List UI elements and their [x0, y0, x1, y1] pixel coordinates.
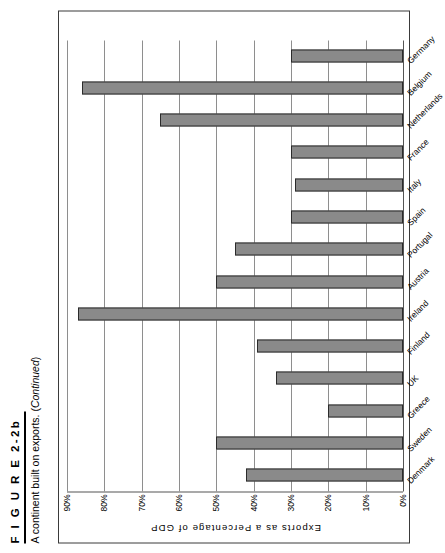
- bar-fill: [328, 404, 403, 417]
- bar: [291, 146, 403, 159]
- tick-label: 90%: [62, 494, 72, 511]
- figure-caption-close: ): [29, 356, 41, 360]
- bar-fill: [291, 210, 403, 223]
- bar-fill: [216, 436, 403, 449]
- bar-series: [67, 40, 403, 491]
- bar: [276, 372, 403, 385]
- category-label: Belgium: [405, 69, 434, 98]
- gridline: [403, 40, 404, 491]
- bar: [216, 275, 403, 288]
- category-label: Spain: [405, 204, 427, 226]
- category-label: France: [405, 136, 431, 162]
- figure-rule: [24, 411, 26, 543]
- chart-frame: Exports as a Percentage of GDP 90%80%70%…: [58, 10, 410, 543]
- bar-fill: [78, 307, 403, 320]
- tick-label: 80%: [99, 494, 109, 511]
- bar: [160, 113, 403, 126]
- figure-caption: A continent built on exports. (Continued…: [29, 123, 42, 543]
- bar: [291, 210, 403, 223]
- category-label: Finland: [405, 329, 432, 356]
- tick-label: 0%: [398, 494, 408, 506]
- bar: [235, 242, 403, 255]
- bar-fill: [160, 113, 403, 126]
- value-axis-title: Exports as a Percentage of GDP: [59, 518, 411, 538]
- bar: [82, 81, 403, 94]
- tick-label: 50%: [211, 494, 221, 511]
- tick-label: 30%: [286, 494, 296, 511]
- value-axis-tick-labels: 90%80%70%60%50%40%30%20%10%0%: [59, 492, 411, 518]
- tick-label: 10%: [361, 494, 371, 511]
- category-label: Germany: [405, 33, 437, 65]
- category-label: Denmark: [405, 453, 436, 484]
- bar-fill: [276, 372, 403, 385]
- figure-header: F I G U R E 2-2b A continent built on ex…: [8, 123, 42, 543]
- figure-number: F I G U R E 2-2b: [8, 123, 22, 543]
- bar: [246, 468, 403, 481]
- bar: [216, 436, 403, 449]
- bar-fill: [235, 242, 403, 255]
- value-axis-title-text: Exports as a Percentage of GDP: [150, 522, 321, 533]
- category-label: Ireland: [405, 298, 430, 323]
- tick-label: 70%: [137, 494, 147, 511]
- figure-caption-text: A continent built on exports. (: [29, 408, 41, 543]
- bar: [295, 178, 403, 191]
- category-label: Portugal: [405, 229, 434, 258]
- plot-area: [67, 40, 403, 492]
- bar-fill: [257, 339, 403, 352]
- bar: [291, 49, 403, 62]
- category-label: Greece: [405, 394, 432, 421]
- bar-fill: [291, 146, 403, 159]
- category-label: UK: [405, 373, 420, 388]
- bar-fill: [82, 81, 403, 94]
- bar-fill: [295, 178, 403, 191]
- category-label: Italy: [405, 176, 423, 194]
- bar: [257, 339, 403, 352]
- figure-caption-continued: Continued: [29, 360, 41, 408]
- tick-label: 40%: [249, 494, 259, 511]
- bar-fill: [246, 468, 403, 481]
- category-label: Sweden: [405, 424, 434, 453]
- tick-label: 60%: [174, 494, 184, 511]
- bar-fill: [216, 275, 403, 288]
- category-label: Austria: [405, 265, 431, 291]
- bar: [78, 307, 403, 320]
- tick-label: 20%: [323, 494, 333, 511]
- bar-fill: [291, 49, 403, 62]
- bar: [328, 404, 403, 417]
